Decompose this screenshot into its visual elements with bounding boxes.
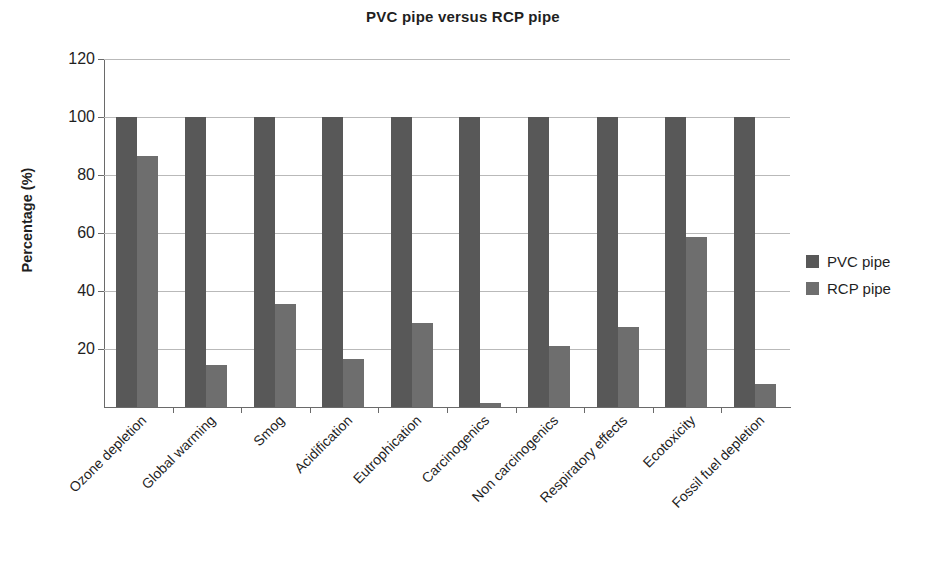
x-axis-tick-mark (241, 407, 242, 413)
x-axis-tick-mark (173, 407, 174, 413)
x-axis-label: Smog (250, 412, 287, 449)
y-axis-tick-label: 60 (77, 224, 95, 242)
x-axis-label: Global warming (138, 412, 218, 492)
bar-rcp (343, 359, 364, 407)
y-axis-tick-mark (98, 291, 104, 292)
chart-legend: PVC pipeRCP pipe (806, 248, 921, 302)
bar-pvc (528, 117, 549, 407)
bar-rcp (206, 365, 227, 407)
bar-pvc (185, 117, 206, 407)
x-axis-tick-mark (721, 407, 722, 413)
x-axis-label: Ecotoxicity (640, 412, 699, 471)
gridline (104, 233, 790, 234)
legend-swatch-icon (806, 255, 819, 268)
chart-title: PVC pipe versus RCP pipe (0, 8, 926, 25)
y-axis-tick-mark (98, 117, 104, 118)
bar-rcp (480, 403, 501, 407)
bar-pvc (322, 117, 343, 407)
bar-rcp (549, 346, 570, 407)
gridline (104, 175, 790, 176)
bar-rcp (412, 323, 433, 407)
y-axis-tick-mark (98, 233, 104, 234)
legend-label: RCP pipe (827, 280, 891, 297)
legend-item-pvc: PVC pipe (806, 248, 921, 275)
gridline (104, 117, 790, 118)
bar-pvc (116, 117, 137, 407)
x-axis-tick-mark (653, 407, 654, 413)
y-axis-tick-label: 20 (77, 340, 95, 358)
y-axis-tick-mark (98, 59, 104, 60)
bar-pvc (597, 117, 618, 407)
x-axis-tick-mark (584, 407, 585, 413)
x-axis-tick-mark (310, 407, 311, 413)
y-axis-tick-mark (98, 175, 104, 176)
y-axis-tick-mark (98, 349, 104, 350)
legend-label: PVC pipe (827, 253, 890, 270)
bar-rcp (275, 304, 296, 407)
legend-swatch-icon (806, 282, 819, 295)
bar-chart: PVC pipe versus RCP pipe Percentage (%) … (0, 0, 926, 567)
y-axis-tick-label: 80 (77, 166, 95, 184)
plot-area: 12010080604020 (104, 59, 790, 407)
gridline (104, 59, 790, 60)
bar-pvc (459, 117, 480, 407)
y-axis-title: Percentage (%) (19, 130, 35, 310)
x-axis-label: Acidification (291, 412, 355, 476)
y-axis-tick-label: 40 (77, 282, 95, 300)
bar-rcp (137, 156, 158, 407)
x-axis-tick-mark (447, 407, 448, 413)
y-axis-tick-label: 120 (68, 50, 95, 68)
bar-rcp (755, 384, 776, 407)
bar-rcp (686, 237, 707, 407)
bar-rcp (618, 327, 639, 407)
bar-pvc (665, 117, 686, 407)
legend-item-rcp: RCP pipe (806, 275, 921, 302)
x-axis-label: Ozone depletion (66, 412, 149, 495)
x-axis-label: Carcinogenics (419, 412, 493, 486)
bar-pvc (391, 117, 412, 407)
y-axis-tick-label: 100 (68, 108, 95, 126)
x-axis-tick-mark (378, 407, 379, 413)
bar-pvc (254, 117, 275, 407)
x-axis-label: Eutrophication (349, 412, 424, 487)
bar-pvc (734, 117, 755, 407)
x-axis-tick-mark (516, 407, 517, 413)
